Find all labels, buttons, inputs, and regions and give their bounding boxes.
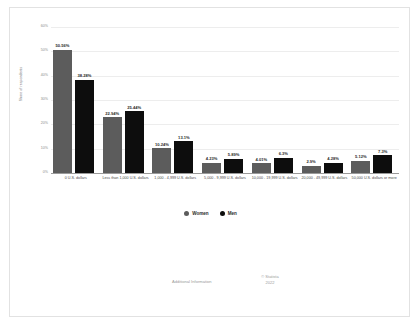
y-axis-tick: 40% (26, 74, 48, 78)
bar-men[interactable] (75, 80, 94, 173)
bar-men[interactable] (224, 159, 243, 173)
bar-group: 4.01%6.3% (250, 27, 300, 173)
x-axis-baseline (51, 173, 399, 174)
bar-women[interactable] (103, 117, 122, 173)
y-axis-tick: 60% (26, 25, 48, 29)
y-axis-tick: 20% (26, 122, 48, 126)
bar-men[interactable] (174, 141, 193, 173)
legend-item-women[interactable]: Women (184, 211, 209, 216)
legend-label-women: Women (192, 211, 209, 216)
bar-women[interactable] (202, 163, 221, 173)
x-axis-label: 10,000 - 19,999 U.S. dollars (250, 176, 299, 182)
chart-footer: Additional Information © Statista 2022 (10, 273, 411, 293)
x-axis-label: 0 U.S. dollars (51, 176, 100, 182)
bar-value-label: 38.28% (65, 74, 105, 78)
x-axis-label: 50,000 U.S. dollars or more (350, 176, 399, 182)
x-axis-label: Less than 1,000 U.S. dollars (101, 176, 150, 182)
bar-group: 50.56%38.28% (51, 27, 101, 173)
x-axis-label: 1,000 - 4,999 U.S. dollars (151, 176, 200, 182)
x-axis-label: 5,000 - 9,999 U.S. dollars (201, 176, 250, 182)
chart-legend: Women Men (10, 211, 411, 216)
bar-men[interactable] (125, 111, 144, 173)
bar-value-label: 50.56% (43, 44, 83, 48)
statista-credit: © Statista 2022 (248, 274, 292, 286)
bar-group: 4.23%5.89% (200, 27, 250, 173)
bar-value-label: 5.89% (214, 153, 254, 157)
y-axis-tick: 0% (26, 171, 48, 175)
additional-information-link[interactable]: Additional Information (172, 279, 212, 284)
x-axis-label-group: 0 U.S. dollarsLess than 1,000 U.S. dolla… (51, 176, 399, 202)
bar-group: 2.9%4.28% (300, 27, 350, 173)
bar-group: 5.12%7.3% (349, 27, 399, 173)
bar-women[interactable] (302, 166, 321, 173)
legend-swatch-men-icon (220, 211, 225, 216)
bar-men[interactable] (373, 155, 392, 173)
statista-credit-line2: 2022 (248, 280, 292, 286)
bar-women[interactable] (252, 163, 271, 173)
x-axis-label: 20,000 - 49,999 U.S. dollars (300, 176, 349, 182)
bar-group: 10.24%13.1% (150, 27, 200, 173)
bar-women[interactable] (152, 148, 171, 173)
bar-women[interactable] (53, 50, 72, 173)
bar-value-label: 13.1% (164, 136, 204, 140)
bar-group: 22.94%25.44% (101, 27, 151, 173)
bars-layer: 50.56%38.28%22.94%25.44%10.24%13.1%4.23%… (51, 27, 399, 173)
bar-men[interactable] (274, 158, 293, 173)
y-axis-title: Share of respondents (19, 44, 23, 124)
y-axis-tick: 30% (26, 98, 48, 102)
y-axis-tick: 50% (26, 49, 48, 53)
plot-area: Share of respondents 0%10%20%30%40%50%60… (10, 8, 411, 208)
legend-swatch-women-icon (184, 211, 189, 216)
bar-men[interactable] (324, 163, 343, 173)
bar-value-label: 7.3% (363, 150, 403, 154)
bar-women[interactable] (351, 161, 370, 173)
chart-card: Share of respondents 0%10%20%30%40%50%60… (9, 7, 410, 317)
legend-label-men: Men (228, 211, 237, 216)
bar-value-label: 6.3% (263, 152, 303, 156)
legend-item-men[interactable]: Men (220, 211, 237, 216)
y-axis-tick: 10% (26, 147, 48, 151)
bar-value-label: 25.44% (114, 106, 154, 110)
